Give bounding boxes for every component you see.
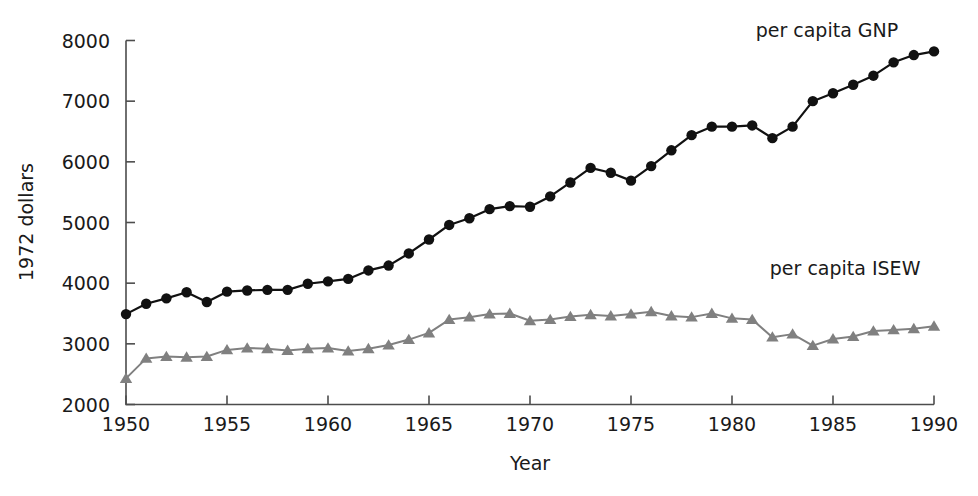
x-axis-title: Year (509, 452, 550, 474)
data-point (767, 133, 777, 143)
x-tick-label-1980: 1980 (708, 413, 756, 435)
data-point (282, 285, 292, 295)
x-tick-label-1970: 1970 (506, 413, 554, 435)
data-point (343, 274, 353, 284)
data-point (808, 96, 818, 106)
y-tick-label-8000: 8000 (62, 30, 110, 52)
data-point (181, 287, 191, 297)
y-axis-tick-labels: 2000300040005000600070008000 (62, 30, 110, 416)
data-point (929, 46, 939, 56)
y-tick-label-7000: 7000 (62, 90, 110, 112)
y-tick-label-2000: 2000 (62, 394, 110, 416)
data-point (383, 260, 393, 270)
data-point (666, 145, 676, 155)
data-point (645, 306, 657, 316)
x-tick-label-1960: 1960 (304, 413, 352, 435)
data-point (606, 168, 616, 178)
x-axis-tick-labels: 195019551960196519701975198019851990 (102, 413, 958, 435)
data-point (363, 265, 373, 275)
data-point (787, 121, 797, 131)
data-series-group (120, 46, 940, 383)
data-point (868, 70, 878, 80)
line-chart-svg: 195019551960196519701975198019851990 200… (0, 0, 978, 496)
x-tick-label-1950: 1950 (102, 413, 150, 435)
series-label-isew: per capita ISEW (770, 257, 921, 279)
data-point (202, 297, 212, 307)
data-point (928, 320, 940, 330)
data-point (909, 50, 919, 60)
data-point (505, 201, 515, 211)
series-label-gnp: per capita GNP (756, 19, 899, 41)
data-point (404, 248, 414, 258)
y-tick-label-6000: 6000 (62, 151, 110, 173)
data-point (242, 285, 252, 295)
data-point (626, 175, 636, 185)
data-point (646, 161, 656, 171)
y-tick-label-5000: 5000 (62, 212, 110, 234)
data-point (121, 309, 131, 319)
data-point (444, 220, 454, 230)
data-point (727, 121, 737, 131)
data-point (888, 57, 898, 67)
data-point (545, 191, 555, 201)
data-point (141, 299, 151, 309)
chart-container: 195019551960196519701975198019851990 200… (0, 0, 978, 496)
y-axis-ticks (126, 41, 135, 405)
x-tick-label-1990: 1990 (910, 413, 958, 435)
data-point (161, 293, 171, 303)
data-point (828, 88, 838, 98)
data-point (707, 121, 717, 131)
data-point (423, 327, 435, 337)
data-point (747, 120, 757, 130)
data-point (464, 213, 474, 223)
data-point (222, 286, 232, 296)
data-point (848, 80, 858, 90)
data-point (565, 177, 575, 187)
data-point (706, 308, 718, 318)
data-point (525, 202, 535, 212)
data-point (262, 285, 272, 295)
data-point (786, 328, 798, 338)
data-point (484, 204, 494, 214)
data-point (585, 163, 595, 173)
data-point (323, 276, 333, 286)
y-tick-label-3000: 3000 (62, 333, 110, 355)
x-tick-label-1955: 1955 (203, 413, 251, 435)
data-point (424, 234, 434, 244)
x-tick-label-1985: 1985 (809, 413, 857, 435)
y-axis-title: 1972 dollars (15, 163, 37, 281)
data-point (303, 279, 313, 289)
data-point (686, 130, 696, 140)
x-tick-label-1975: 1975 (607, 413, 655, 435)
x-axis-ticks (126, 396, 934, 405)
x-tick-label-1965: 1965 (405, 413, 453, 435)
series-per-capita-isew (120, 306, 940, 383)
y-tick-label-4000: 4000 (62, 272, 110, 294)
